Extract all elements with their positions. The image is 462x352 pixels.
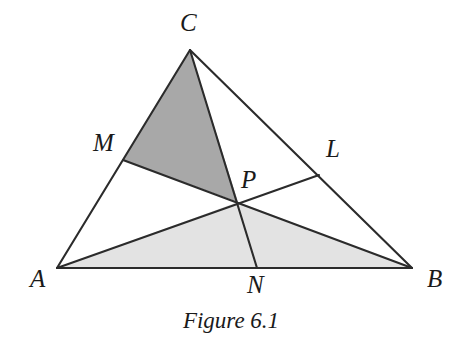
vertex-label-b: B [427, 266, 442, 291]
figure-container: A B C M N L P Figure 6.1 [0, 0, 462, 352]
point-label-n: N [247, 272, 264, 297]
shaded-region-triangle-apb [57, 202, 412, 268]
vertex-label-a: A [30, 266, 45, 291]
point-label-m: M [93, 130, 114, 155]
point-label-p: P [241, 167, 256, 192]
figure-caption: Figure 6.1 [0, 308, 462, 334]
geometry-canvas [0, 0, 462, 352]
point-label-l: L [326, 136, 340, 161]
vertex-label-c: C [180, 10, 197, 35]
